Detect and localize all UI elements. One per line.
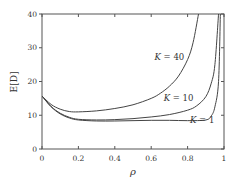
y-tick-label: 0	[32, 145, 37, 154]
y-tick-label: 30	[27, 43, 37, 52]
series-label: K = 10	[163, 93, 194, 103]
x-tick-label: 0.6	[145, 154, 157, 163]
line-chart: 00.20.40.60.81 010203040 K = 40K = 10K =…	[0, 0, 238, 180]
data-series	[42, 14, 220, 121]
x-tick-label: 0	[40, 154, 45, 163]
y-tick-label: 20	[27, 77, 37, 86]
y-axis-label: E[D]	[9, 72, 19, 93]
x-tick-label: 0.2	[72, 154, 84, 163]
x-tick-label: 1	[222, 154, 227, 163]
series-label: K = 40	[154, 52, 185, 62]
y-tick-label: 40	[27, 10, 37, 19]
y-tick-label: 10	[27, 111, 37, 120]
x-axis-label: ρ	[129, 166, 136, 177]
series-label: K = 1	[189, 115, 214, 125]
plot-frame	[42, 14, 224, 149]
curve-k10	[42, 14, 219, 120]
y-axis-ticks: 010203040	[27, 10, 224, 154]
x-tick-label: 0.8	[182, 154, 194, 163]
x-axis-ticks: 00.20.40.60.81	[40, 14, 227, 163]
series-labels: K = 40K = 10K = 1	[154, 52, 215, 126]
x-tick-label: 0.4	[109, 154, 121, 163]
